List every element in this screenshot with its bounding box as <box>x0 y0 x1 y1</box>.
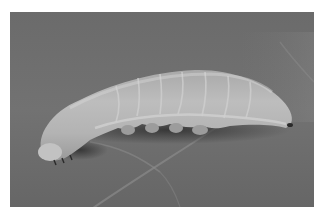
larva-tail-tip <box>287 123 293 127</box>
larva-illustration <box>10 12 314 207</box>
larva-head <box>38 143 62 161</box>
larva-photo <box>10 12 314 207</box>
image-frame <box>0 0 325 218</box>
